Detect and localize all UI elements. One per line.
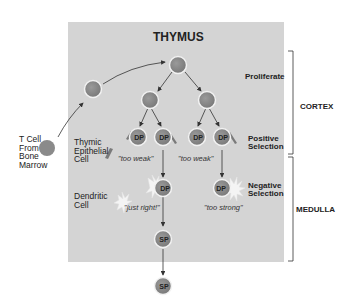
sp-label: SP bbox=[159, 236, 169, 243]
positive-selection-line: Selection bbox=[248, 143, 284, 151]
stage-positive-selection: Positive Selection bbox=[248, 135, 284, 151]
arrows bbox=[58, 62, 222, 275]
dendritic-line: Cell bbox=[74, 201, 108, 210]
stage-proliferate: Proliferate bbox=[245, 73, 285, 81]
dp-label: DP bbox=[159, 134, 169, 141]
epithelial-line: Cell bbox=[74, 155, 109, 164]
negative-selection-line: Selection bbox=[248, 190, 284, 198]
outcome-too-weak-left: "too weak" bbox=[118, 155, 153, 163]
outcome-too-weak-right: "too weak" bbox=[178, 155, 213, 163]
medulla-bracket bbox=[288, 157, 293, 261]
diagram-title: THYMUS bbox=[153, 31, 204, 43]
source-label: T Cell From Bone Marrow bbox=[19, 135, 47, 169]
sp-label: SP bbox=[159, 283, 169, 290]
dp-label: DP bbox=[160, 185, 170, 192]
outcome-just-right: "just right!" bbox=[124, 204, 160, 212]
dp-label: DP bbox=[193, 134, 203, 141]
region-cortex: CORTEX bbox=[300, 103, 333, 111]
thymus-diagram: DP DP DP DP DP DP SP SP bbox=[0, 0, 351, 305]
region-brackets bbox=[288, 51, 293, 261]
dp-label: DP bbox=[216, 185, 226, 192]
dp-label: DP bbox=[134, 134, 144, 141]
cells bbox=[39, 57, 231, 295]
stage-negative-selection: Negative Selection bbox=[248, 182, 284, 198]
cortex-bracket bbox=[288, 51, 293, 154]
region-medulla: MEDULLA bbox=[296, 206, 335, 214]
outcome-too-strong: "too strong" bbox=[204, 204, 243, 212]
source-line: Marrow bbox=[19, 161, 47, 170]
dp-label: DP bbox=[218, 134, 228, 141]
dendritic-cell-label: Dendritic Cell bbox=[74, 192, 108, 209]
epithelial-cell-label: Thymic Epithelial Cell bbox=[74, 138, 109, 164]
